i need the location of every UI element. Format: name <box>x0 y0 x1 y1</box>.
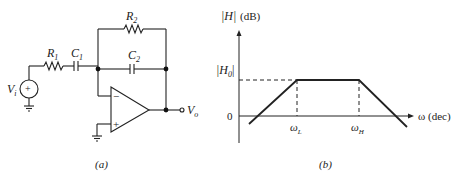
wh-label: ωH <box>351 121 365 136</box>
c2-label: C2 <box>128 48 140 64</box>
vi-label: Vi <box>7 82 17 98</box>
figure-canvas: + Vi R1 C1 R2 C2 − + Vo (a) |H| (dB) |H0… <box>0 0 457 182</box>
zero-label: 0 <box>227 110 233 122</box>
vo-label: Vo <box>187 103 198 119</box>
capacitor-c1-icon <box>74 61 78 71</box>
y-axis-label-mag: |H| <box>221 9 236 23</box>
y-axis-label-unit: (dB) <box>240 10 261 23</box>
opamp-minus: − <box>113 90 119 102</box>
caption-a: (a) <box>95 158 108 171</box>
x-axis-label: ω (dec) <box>418 110 451 123</box>
ground-icon <box>92 136 102 141</box>
ground-icon <box>24 106 34 111</box>
resistor-r2-icon <box>124 25 143 33</box>
junction-dots <box>96 67 169 113</box>
resistor-r1-icon <box>44 62 63 70</box>
output-terminal-icon <box>180 108 184 112</box>
y-arrow-icon <box>237 30 242 36</box>
bode-plot-b <box>239 34 408 143</box>
opamp-plus: + <box>113 118 119 130</box>
x-arrow-icon <box>408 114 414 119</box>
capacitor-c2-icon <box>130 64 134 74</box>
r2-label: R2 <box>125 9 137 25</box>
source-plus: + <box>25 83 31 94</box>
r1-label: R1 <box>46 46 58 62</box>
c1-label: C1 <box>71 46 83 62</box>
caption-b: (b) <box>319 158 332 171</box>
wl-label: ωL <box>290 121 302 136</box>
h0-label: |H0| <box>216 63 234 79</box>
bode-curve <box>249 80 407 127</box>
circuit-a <box>20 25 184 141</box>
